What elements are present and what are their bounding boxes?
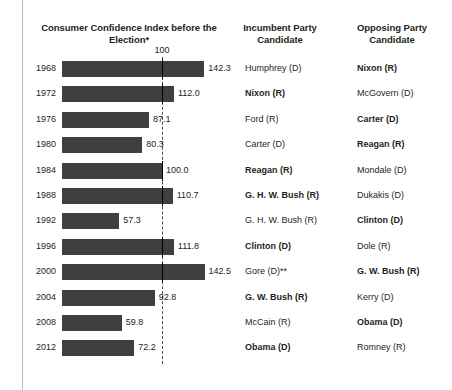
axis-reference-segment bbox=[162, 186, 163, 206]
incumbent-candidate: Clinton (D) bbox=[245, 241, 291, 251]
chart-row: 197687.1Ford (R)Carter (D) bbox=[0, 108, 452, 133]
bar-value-label: 142.3 bbox=[208, 63, 231, 73]
opposing-candidate: Romney (R) bbox=[357, 342, 406, 352]
bar bbox=[62, 188, 173, 204]
bar-track bbox=[62, 315, 122, 331]
bar bbox=[62, 264, 205, 280]
incumbent-candidate: Gore (D)** bbox=[245, 266, 287, 276]
bar bbox=[62, 112, 149, 128]
row-year-label: 1976 bbox=[26, 114, 56, 124]
incumbent-candidate: Obama (D) bbox=[245, 342, 291, 352]
bar-track bbox=[62, 86, 174, 102]
opposing-candidate: Carter (D) bbox=[357, 114, 399, 124]
incumbent-candidate: G. W. Bush (R) bbox=[245, 292, 308, 302]
bar-track bbox=[62, 239, 174, 255]
chart-figure: Consumer Confidence Index before the Ele… bbox=[0, 0, 452, 390]
chart-row: 1996111.8Clinton (D)Dole (R) bbox=[0, 235, 452, 260]
column-header-chart: Consumer Confidence Index before the Ele… bbox=[38, 22, 220, 45]
bar-track bbox=[62, 213, 119, 229]
axis-reference-segment bbox=[162, 237, 163, 257]
axis-reference-segment bbox=[162, 59, 163, 79]
incumbent-candidate: G. H. W. Bush (R) bbox=[245, 190, 319, 200]
bar bbox=[62, 340, 134, 356]
bar bbox=[62, 86, 174, 102]
opposing-candidate: Clinton (D) bbox=[357, 215, 403, 225]
bar-track bbox=[62, 264, 205, 280]
bar-track bbox=[62, 137, 142, 153]
row-year-label: 2004 bbox=[26, 292, 56, 302]
bar-value-label: 92.8 bbox=[159, 292, 177, 302]
bar bbox=[62, 315, 122, 331]
row-year-label: 2008 bbox=[26, 317, 56, 327]
bar bbox=[62, 290, 155, 306]
chart-row: 200859.8McCain (R)Obama (D) bbox=[0, 311, 452, 336]
bar-value-label: 112.0 bbox=[178, 88, 200, 98]
bar-value-label: 111.8 bbox=[178, 241, 199, 251]
axis-reference-segment bbox=[162, 84, 163, 104]
bar bbox=[62, 213, 119, 229]
bar bbox=[62, 239, 174, 255]
row-year-label: 1988 bbox=[26, 190, 56, 200]
opposing-candidate: Dole (R) bbox=[357, 241, 391, 251]
incumbent-candidate: Carter (D) bbox=[245, 139, 285, 149]
opposing-candidate: Obama (D) bbox=[357, 317, 403, 327]
bar-value-label: 100.0 bbox=[166, 165, 189, 175]
bar bbox=[62, 163, 162, 179]
chart-row: 198080.3Carter (D)Reagan (R) bbox=[0, 133, 452, 158]
bar bbox=[62, 61, 204, 77]
bar-value-label: 59.8 bbox=[126, 317, 144, 327]
bar-value-label: 142.5 bbox=[209, 266, 232, 276]
chart-rows: 1968142.3Humphrey (D)Nixon (R)1972112.0N… bbox=[0, 57, 452, 362]
row-year-label: 1984 bbox=[26, 165, 56, 175]
chart-row: 1972112.0Nixon (R)McGovern (D) bbox=[0, 82, 452, 107]
row-year-label: 2000 bbox=[26, 266, 56, 276]
chart-row: 201272.2Obama (D)Romney (R) bbox=[0, 336, 452, 361]
bar bbox=[62, 137, 142, 153]
bar-track bbox=[62, 112, 149, 128]
incumbent-candidate: Nixon (R) bbox=[245, 88, 285, 98]
incumbent-candidate: Ford (R) bbox=[245, 114, 279, 124]
chart-row: 2000142.5Gore (D)**G. W. Bush (R) bbox=[0, 260, 452, 285]
bar-value-label: 72.2 bbox=[138, 342, 156, 352]
bar-value-label: 110.7 bbox=[177, 190, 199, 200]
bar-track bbox=[62, 163, 162, 179]
bar-track bbox=[62, 340, 134, 356]
bar-value-label: 80.3 bbox=[146, 139, 164, 149]
chart-row: 1968142.3Humphrey (D)Nixon (R) bbox=[0, 57, 452, 82]
incumbent-candidate: McCain (R) bbox=[245, 317, 291, 327]
chart-row: 200492.8G. W. Bush (R)Kerry (D) bbox=[0, 286, 452, 311]
incumbent-candidate: Humphrey (D) bbox=[245, 63, 302, 73]
axis-reference-segment bbox=[162, 262, 163, 282]
axis-reference-segment bbox=[162, 161, 163, 181]
incumbent-candidate: Reagan (R) bbox=[245, 165, 293, 175]
bar-value-label: 87.1 bbox=[153, 114, 171, 124]
bar-track bbox=[62, 188, 173, 204]
opposing-candidate: Mondale (D) bbox=[357, 165, 407, 175]
chart-row: 1988110.7G. H. W. Bush (R)Dukakis (D) bbox=[0, 184, 452, 209]
bar-track bbox=[62, 290, 155, 306]
row-year-label: 1968 bbox=[26, 63, 56, 73]
opposing-candidate: Kerry (D) bbox=[357, 292, 394, 302]
row-year-label: 1980 bbox=[26, 139, 56, 149]
opposing-candidate: McGovern (D) bbox=[357, 88, 414, 98]
row-year-label: 1972 bbox=[26, 88, 56, 98]
opposing-candidate: Dukakis (D) bbox=[357, 190, 404, 200]
opposing-candidate: Nixon (R) bbox=[357, 63, 397, 73]
row-year-label: 1996 bbox=[26, 241, 56, 251]
column-header-incumbent-party-candidate: Incumbent Party Candidate bbox=[225, 22, 335, 45]
incumbent-candidate: G. H. W. Bush (R) bbox=[245, 215, 317, 225]
chart-row: 199257.3G. H. W. Bush (R)Clinton (D) bbox=[0, 209, 452, 234]
axis-reference-label-100: 100 bbox=[148, 45, 176, 55]
chart-row: 1984100.0Reagan (R)Mondale (D) bbox=[0, 159, 452, 184]
opposing-candidate: G. W. Bush (R) bbox=[357, 266, 420, 276]
bar-value-label: 57.3 bbox=[123, 215, 141, 225]
bar-track bbox=[62, 61, 204, 77]
row-year-label: 1992 bbox=[26, 215, 56, 225]
opposing-candidate: Reagan (R) bbox=[357, 139, 405, 149]
row-year-label: 2012 bbox=[26, 342, 56, 352]
column-header-opposing-party-candidate: Opposing Party Candidate bbox=[337, 22, 447, 45]
